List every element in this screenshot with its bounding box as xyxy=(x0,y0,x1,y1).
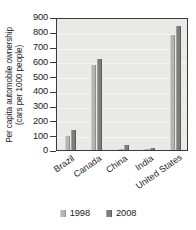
gridline xyxy=(57,63,187,64)
bar-canada-1998 xyxy=(91,65,96,150)
y-axis-tick-label: 500 xyxy=(14,73,48,82)
x-axis-labels: BrazilCanadaChinaIndiaUnited States xyxy=(56,151,196,207)
bar-china-1998 xyxy=(118,149,123,150)
legend-swatch-2008 xyxy=(106,210,112,217)
legend-item-1998: 1998 xyxy=(60,209,90,218)
legend-item-2008: 2008 xyxy=(106,209,136,218)
gridline xyxy=(57,49,187,50)
bar-united-states-1998 xyxy=(170,35,175,150)
plot-area xyxy=(56,18,188,151)
chart-legend: 19982008 xyxy=(0,209,196,218)
gridline xyxy=(57,122,187,123)
y-axis-tick-label: 800 xyxy=(14,28,48,37)
gridline xyxy=(57,34,187,35)
gridline xyxy=(57,137,187,138)
gridline xyxy=(57,93,187,94)
y-axis-tick-label: 400 xyxy=(14,87,48,96)
y-axis-tick-label: 700 xyxy=(14,43,48,52)
bar-brazil-1998 xyxy=(65,136,70,150)
legend-swatch-1998 xyxy=(60,210,66,217)
y-axis-tick-label: 900 xyxy=(14,13,48,22)
bar-united-states-2008 xyxy=(176,26,181,150)
bar-canada-2008 xyxy=(97,59,102,150)
bar-china-2008 xyxy=(124,145,129,150)
chart-figure: Per capita automobile ownership (cars pe… xyxy=(0,0,196,230)
y-axis-tick-label: 100 xyxy=(14,132,48,141)
legend-label-1998: 1998 xyxy=(70,209,90,218)
bar-india-1998 xyxy=(144,149,149,150)
gridline xyxy=(57,78,187,79)
y-axis-tick-label: 0 xyxy=(14,146,48,155)
y-axis-tick-label: 600 xyxy=(14,58,48,67)
y-axis-tick-label: 300 xyxy=(14,102,48,111)
y-axis-tick-label: 200 xyxy=(14,117,48,126)
bar-india-2008 xyxy=(150,148,155,150)
bar-brazil-2008 xyxy=(71,130,76,150)
gridline xyxy=(57,108,187,109)
legend-label-2008: 2008 xyxy=(116,209,136,218)
